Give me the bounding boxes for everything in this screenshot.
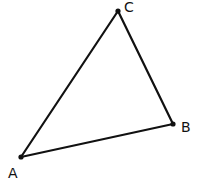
vertex-a-label: A [8,165,18,181]
triangle-diagram: A B C [0,0,204,184]
vertex-b-label: B [181,119,191,135]
vertex-a-dot [18,154,23,159]
edge-b-c [118,11,173,124]
vertex-b-dot [170,121,175,126]
triangle-canvas: A B C [0,0,204,184]
edge-a-b [21,124,173,157]
vertex-c-label: C [124,0,134,15]
edge-c-a [21,11,118,157]
vertex-c-dot [115,8,120,13]
